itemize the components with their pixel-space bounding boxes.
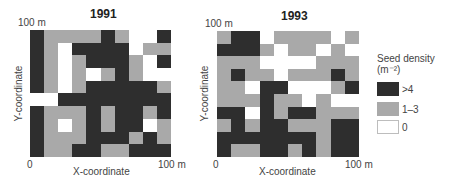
grid-cell — [316, 81, 330, 94]
grid-cell — [72, 144, 86, 157]
grid-cell — [302, 69, 316, 82]
grid-cell — [143, 93, 157, 106]
grid-cell — [115, 119, 129, 132]
grid-cell — [143, 132, 157, 145]
grid-cell — [217, 94, 231, 107]
grid-cell — [331, 107, 345, 120]
grid-cell — [129, 144, 143, 157]
grid-cell — [302, 81, 316, 94]
grid-cell — [129, 132, 143, 145]
grid-cell — [129, 30, 143, 43]
grid-cell — [245, 144, 259, 157]
grid-cell — [101, 81, 115, 94]
grid-cell — [274, 119, 288, 132]
y-top-tick-1991: 100 m — [18, 17, 46, 28]
grid-cell — [157, 144, 171, 157]
x-end-tick-1993: 100 m — [345, 159, 373, 170]
grid-cell — [44, 68, 58, 81]
grid-cell — [345, 107, 359, 120]
grid-cell — [129, 119, 143, 132]
grid-cell — [72, 81, 86, 94]
grid-cell — [157, 106, 171, 119]
grid-cell — [86, 119, 100, 132]
grid-cell — [129, 93, 143, 106]
grid-cell — [316, 94, 330, 107]
grid-cell — [86, 55, 100, 68]
grid-cell — [58, 93, 72, 106]
grid-cell — [316, 119, 330, 132]
grid-cell — [30, 119, 44, 132]
grid-cell — [217, 31, 231, 44]
grid-cell — [143, 106, 157, 119]
grid-cell — [245, 132, 259, 145]
grid-cell — [260, 81, 274, 94]
panel-title-1991: 1991 — [90, 7, 117, 21]
grid-cell — [288, 119, 302, 132]
y-axis-label-1993: Y-coordinate — [199, 60, 210, 128]
grid-cell — [331, 119, 345, 132]
grid-cell — [30, 132, 44, 145]
legend-title: Seed density — [377, 53, 435, 64]
grid-cell — [288, 81, 302, 94]
grid-cell — [302, 94, 316, 107]
grid-cell — [288, 144, 302, 157]
grid-cell — [86, 81, 100, 94]
grid-cell — [115, 106, 129, 119]
grid-cell — [288, 107, 302, 120]
grid-cell — [44, 55, 58, 68]
grid-cell — [331, 132, 345, 145]
grid-cell — [101, 106, 115, 119]
grid-cell — [72, 43, 86, 56]
grid-cell — [260, 132, 274, 145]
grid-cell — [115, 93, 129, 106]
grid-cell — [58, 30, 72, 43]
x-axis-label-1993: X-coordinate — [259, 166, 316, 177]
grid-cell — [345, 94, 359, 107]
grid-cell — [302, 119, 316, 132]
grid-cell — [260, 69, 274, 82]
grid-cell — [44, 132, 58, 145]
legend-label-medium: 1–3 — [402, 104, 419, 115]
grid-cell — [101, 30, 115, 43]
grid-cell — [72, 68, 86, 81]
grid-cell — [72, 30, 86, 43]
grid-cell — [58, 81, 72, 94]
grid-cell — [345, 44, 359, 57]
grid-cell — [345, 81, 359, 94]
grid-cell — [30, 81, 44, 94]
grid-cell — [274, 94, 288, 107]
grid-cell — [44, 81, 58, 94]
x-axis-label-1991: X-coordinate — [73, 166, 130, 177]
grid-cell — [129, 43, 143, 56]
grid-cell — [345, 31, 359, 44]
legend-swatch-zero — [377, 120, 399, 134]
grid-cell — [217, 132, 231, 145]
grid-cell — [217, 144, 231, 157]
grid-cell — [274, 144, 288, 157]
grid-cell — [260, 56, 274, 69]
grid-cell — [302, 107, 316, 120]
grid-cell — [231, 107, 245, 120]
grid-cell — [157, 81, 171, 94]
grid-cell — [288, 44, 302, 57]
grid-cell — [316, 132, 330, 145]
grid-cell — [30, 30, 44, 43]
grid-cell — [58, 106, 72, 119]
grid-cell — [217, 107, 231, 120]
grid-cell — [157, 55, 171, 68]
grid-cell — [86, 93, 100, 106]
grid-cell — [115, 55, 129, 68]
grid-cell — [302, 44, 316, 57]
grid-cell — [101, 119, 115, 132]
y-axis-label-1991: Y-coordinate — [13, 60, 24, 128]
y-top-tick-1993: 100 m — [205, 18, 233, 29]
grid-cell — [331, 31, 345, 44]
grid-cell — [86, 132, 100, 145]
legend-swatch-high — [377, 82, 399, 96]
grid-cell — [115, 43, 129, 56]
seed-density-grid-1993 — [217, 31, 359, 157]
grid-cell — [157, 43, 171, 56]
grid-cell — [302, 144, 316, 157]
legend-label-high: >4 — [402, 84, 413, 95]
panel-title-1993: 1993 — [281, 9, 308, 23]
